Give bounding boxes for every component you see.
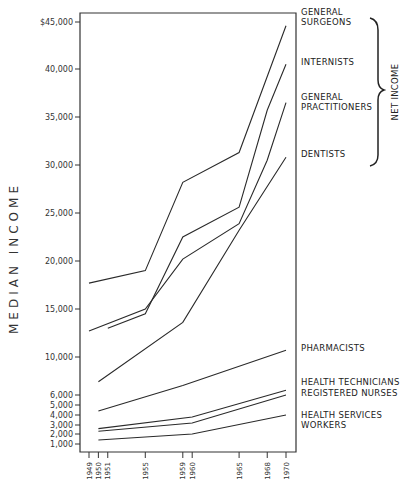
y-tick-label: 2,000 [50,430,73,439]
series-line [89,103,286,332]
series-line [98,395,286,431]
series-label: GENERAL [301,7,343,17]
series-label: HEALTH TECHNICIANS [301,377,400,387]
y-tick-label: 15,000 [45,305,73,314]
series-label: GENERAL [301,92,343,102]
y-tick-label: 4,000 [50,411,73,420]
series-label: PHARMACISTS [301,343,365,353]
x-tick-label: 1951 [104,462,112,480]
y-axis-label: MEDIAN INCOME [7,182,21,334]
series-label: REGISTERED NURSES [301,388,398,398]
series-label: PRACTITIONERS [301,102,372,112]
series-label: INTERNISTS [301,57,354,67]
y-tick-label: 10,000 [45,353,73,362]
y-tick-label: 5,000 [50,401,73,410]
y-tick-label: 25,000 [45,209,73,218]
plot-frame [80,13,296,452]
x-tick-label: 1968 [264,462,272,480]
x-tick-label: 1970 [283,462,291,480]
y-tick-label: 20,000 [45,257,73,266]
y-tick-label: 1,000 [50,440,73,449]
series-line [108,64,286,328]
net-income-annotation: NET INCOME [390,64,400,121]
series-label: DENTISTS [301,149,345,159]
series-label: HEALTH SERVICES [301,410,382,420]
series-line [98,415,286,440]
y-tick-label: 6,000 [50,391,73,400]
series-label: SURGEONS [301,17,351,27]
net-income-brace [370,18,384,166]
y-tick-label: 30,000 [45,161,73,170]
x-tick-label: 1955 [142,462,150,480]
y-tick-label: 35,000 [45,113,73,122]
series-line [98,350,286,411]
x-tick-label: 1960 [189,462,197,480]
x-tick-label: 1950 [95,462,103,480]
x-tick-label: 1959 [179,462,187,480]
series-line [89,26,286,283]
y-tick-label: 3,000 [50,421,73,430]
y-tick-label: $45,000 [40,18,73,27]
x-tick-label: 1949 [86,462,94,480]
x-tick-label: 1965 [236,462,244,480]
series-label: WORKERS [301,420,346,430]
income-chart: $45,00040,00035,00030,00025,00020,00015,… [0,0,420,486]
series-line [98,157,286,381]
y-tick-label: 40,000 [45,65,73,74]
